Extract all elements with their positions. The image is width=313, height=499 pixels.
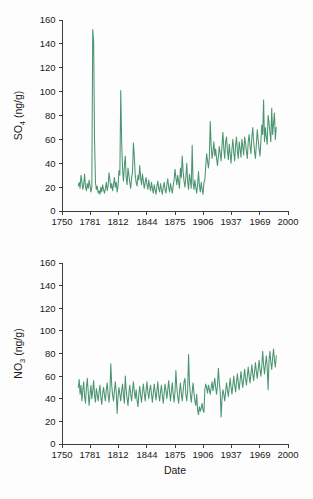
- y-tick-label: 160: [40, 14, 56, 25]
- y-tick-label: 100: [40, 325, 56, 336]
- y-tick-label: 140: [40, 280, 56, 291]
- y-tick-label: 80: [45, 110, 56, 121]
- x-tick-label: 1875: [164, 216, 185, 227]
- x-tick-label: 1750: [51, 449, 72, 460]
- x-tick-label: 1844: [136, 216, 157, 227]
- y-tick-label: 20: [45, 416, 56, 427]
- chart-panel-so4: 0204060801001201401601750178118121844187…: [0, 0, 313, 245]
- x-tick-label: 1906: [192, 216, 213, 227]
- y-tick-label: 100: [40, 86, 56, 97]
- data-series-so4: [78, 30, 276, 195]
- y-tick-label: 140: [40, 38, 56, 49]
- chart-svg-so4: 0204060801001201401601750178118121844187…: [0, 0, 313, 245]
- y-axis-label: NO3 (ng/g): [12, 328, 27, 378]
- y-tick-label: 60: [45, 134, 56, 145]
- y-axis-label-base: NO: [12, 363, 24, 379]
- x-tick-label: 1781: [79, 216, 100, 227]
- y-axis-label-base: SO: [12, 125, 24, 140]
- chart-panel-no3: 0204060801001201401601750178118121844187…: [0, 245, 313, 499]
- y-tick-label: 60: [45, 371, 56, 382]
- x-tick-label: 1969: [249, 449, 270, 460]
- y-tick-label: 80: [45, 348, 56, 359]
- x-tick-label: 1875: [164, 449, 185, 460]
- x-tick-label: 1812: [107, 216, 128, 227]
- x-tick-label: 2000: [277, 449, 298, 460]
- y-tick-label: 20: [45, 182, 56, 193]
- y-axis-label: SO4 (ng/g): [12, 91, 27, 141]
- y-tick-label: 40: [45, 393, 56, 404]
- chart-svg-no3: 0204060801001201401601750178118121844187…: [0, 245, 313, 499]
- y-tick-label: 160: [40, 257, 56, 268]
- y-axis-label-unit: (ng/g): [12, 328, 24, 358]
- x-tick-label: 2000: [277, 216, 298, 227]
- x-tick-label: 1781: [79, 449, 100, 460]
- x-tick-label: 1812: [107, 449, 128, 460]
- x-tick-label: 1937: [220, 216, 241, 227]
- data-series-no3: [78, 349, 276, 417]
- y-axis-label-unit: (ng/g): [12, 91, 24, 121]
- figure-container: 0204060801001201401601750178118121844187…: [0, 0, 313, 499]
- x-tick-label: 1937: [220, 449, 241, 460]
- x-tick-label: 1844: [136, 449, 157, 460]
- y-tick-label: 120: [40, 303, 56, 314]
- x-tick-label: 1750: [51, 216, 72, 227]
- x-axis-label: Date: [164, 464, 186, 476]
- y-tick-label: 120: [40, 62, 56, 73]
- x-tick-label: 1969: [249, 216, 270, 227]
- y-tick-label: 40: [45, 158, 56, 169]
- x-tick-label: 1906: [192, 449, 213, 460]
